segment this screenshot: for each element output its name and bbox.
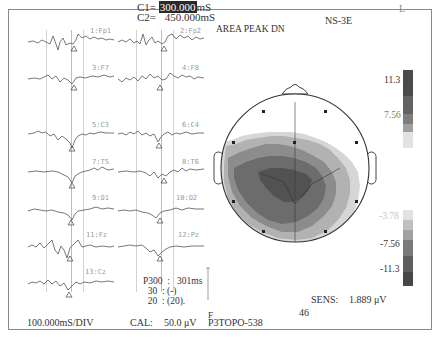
waveform-pz [118,245,204,256]
waveform-f7 [28,75,114,84]
sens-value: 1.889 μV [349,294,387,305]
eeg-waveform-panel [0,0,215,300]
page-number: 46 [299,307,309,318]
peak-markers [66,46,167,297]
timebase-label: 100.000mS/DIV [27,317,93,328]
waveform-o2 [118,208,204,218]
sens-label: SENS: [311,294,338,305]
map-mode-label: AREA PEAK DN [216,24,285,34]
p300-results: P300 : 301ms 30 : (-) 20 : (20). [143,276,202,306]
scalp-topography-map[interactable] [212,82,384,254]
result-label-p300: P300 [143,276,163,286]
waveform-f8 [118,73,204,82]
result-value-30: (-) [167,286,177,296]
result-value-20: (20). [167,296,185,306]
colorscale-tick-pos-mid: 7.56 [384,110,401,120]
device-model: NS-3E [325,15,352,26]
colorscale-positive [403,70,413,148]
result-sep: : [167,276,170,286]
waveform-fp1 [28,34,114,50]
waveform-cz [28,280,114,290]
colorscale-tick-neg-low: -3.78 [379,211,399,221]
waveform-c3 [28,131,114,148]
cal-label: CAL: [130,317,153,328]
waveform-fp2 [118,34,204,45]
nose-icon [282,85,308,95]
result-sep: : [162,296,165,306]
waveform-t5 [28,167,114,183]
result-value-p300: 301ms [177,276,202,286]
result-label-20: 20 [148,296,158,306]
waveform-o1 [28,207,114,220]
waveform-fz [28,240,114,258]
waveform-c4 [118,131,204,142]
colorscale-negative [403,210,413,286]
side-marker: L [399,3,405,14]
waveform-t6 [118,168,204,178]
colorscale-tick-neg-mid: -7.56 [380,239,400,249]
file-id: P3TOPO-538 [208,317,263,328]
cal-value: 50.0 μV [164,317,197,328]
result-sep: : [162,286,165,296]
result-label-30: 30 [148,286,158,296]
colorscale-tick-min: -11.3 [380,264,399,274]
colorscale-tick-max: 11.3 [384,75,400,85]
